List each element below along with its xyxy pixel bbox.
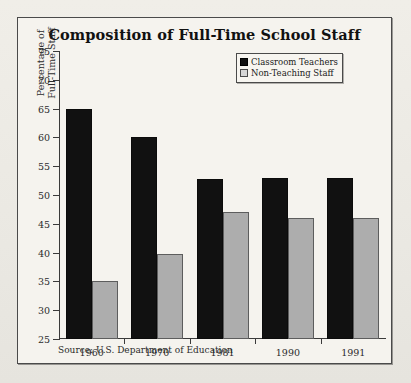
y-axis-tick bbox=[53, 224, 60, 225]
bar-1970-non-teaching-staff bbox=[157, 254, 183, 339]
y-axis-tick bbox=[53, 310, 60, 311]
y-axis-tick-label: 35 bbox=[38, 276, 50, 287]
y-axis-tick-label: 50 bbox=[38, 190, 50, 201]
plot-area: 2530354045505560657075 19601970198119901… bbox=[59, 51, 386, 339]
bar-1981-non-teaching-staff bbox=[223, 212, 249, 339]
x-axis-tick-label: 1990 bbox=[276, 347, 300, 358]
x-axis-tick bbox=[190, 339, 191, 344]
y-axis-tick bbox=[53, 109, 60, 110]
x-axis-tick-label: 1991 bbox=[341, 347, 365, 358]
x-axis-tick bbox=[321, 339, 322, 344]
y-axis-tick bbox=[53, 80, 60, 81]
y-axis-tick-label: 75 bbox=[38, 46, 50, 57]
y-axis-label-line-2: Full-Time Staff bbox=[46, 0, 57, 138]
y-axis-tick-label: 55 bbox=[38, 161, 50, 172]
y-axis-tick bbox=[53, 166, 60, 167]
bar-1991-non-teaching-staff bbox=[353, 218, 379, 339]
y-axis-label: Percentage of Full-Time Staff bbox=[35, 0, 57, 138]
y-axis-tick-label: 40 bbox=[38, 247, 50, 258]
y-axis-tick bbox=[53, 281, 60, 282]
y-axis-tick bbox=[53, 253, 60, 254]
bar-1990-classroom-teachers bbox=[262, 178, 288, 339]
bar-1981-classroom-teachers bbox=[197, 179, 223, 339]
y-axis-tick bbox=[53, 51, 60, 52]
y-axis-tick-label: 45 bbox=[38, 218, 50, 229]
y-axis-label-line-1: Percentage of bbox=[35, 0, 46, 138]
x-axis-tick bbox=[255, 339, 256, 344]
bar-1960-classroom-teachers bbox=[66, 109, 92, 339]
y-axis-tick-label: 70 bbox=[38, 74, 50, 85]
chart-title: Composition of Full-Time School Staff bbox=[18, 26, 391, 43]
chart-frame: Composition of Full-Time School Staff Pe… bbox=[17, 17, 392, 364]
y-axis-tick-label: 60 bbox=[38, 132, 50, 143]
y-axis-tick-label: 30 bbox=[38, 305, 50, 316]
y-axis-tick bbox=[53, 339, 60, 340]
bar-1991-classroom-teachers bbox=[327, 178, 353, 339]
y-axis-tick-label: 25 bbox=[38, 334, 50, 345]
y-axis-tick bbox=[53, 137, 60, 138]
y-axis-tick bbox=[53, 195, 60, 196]
bar-1960-non-teaching-staff bbox=[92, 281, 118, 339]
y-axis-tick-label: 65 bbox=[38, 103, 50, 114]
bar-1970-classroom-teachers bbox=[131, 137, 157, 339]
page-background: Composition of Full-Time School Staff Pe… bbox=[0, 0, 411, 383]
bar-1990-non-teaching-staff bbox=[288, 218, 314, 339]
x-axis-tick bbox=[124, 339, 125, 344]
source-note: Source: U.S. Department of Education bbox=[58, 345, 233, 355]
